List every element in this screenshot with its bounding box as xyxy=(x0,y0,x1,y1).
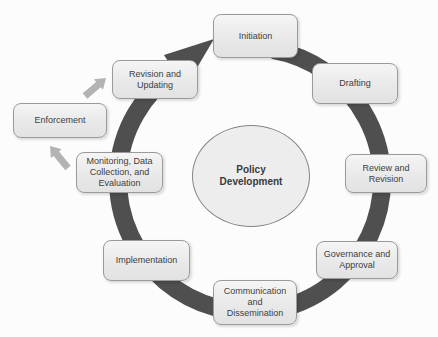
stage-label: Governance and Approval xyxy=(322,249,392,271)
stage-label: Implementation xyxy=(116,255,178,266)
stage-box-communication-and-dissemination: Communication and Dissemination xyxy=(213,280,297,325)
center-label: Policy Development xyxy=(216,164,286,189)
center-ellipse: Policy Development xyxy=(192,125,310,227)
stage-box-monitoring-data-collection-and-evaluation: Monitoring, Data Collection, and Evaluat… xyxy=(76,152,163,193)
stage-box-enforcement: Enforcement xyxy=(13,103,107,138)
arrow-monitoring-to-enforcement-icon xyxy=(50,146,71,170)
arrow-enforcement-to-revision-icon xyxy=(83,78,106,99)
stage-label: Enforcement xyxy=(34,115,85,126)
stage-label: Communication and Dissemination xyxy=(219,286,291,318)
stage-label: Revision and Updating xyxy=(118,69,192,91)
stage-box-review-and-revision: Review and Revision xyxy=(345,154,427,193)
stage-box-initiation: Initiation xyxy=(213,14,298,58)
stage-label: Initiation xyxy=(239,31,273,42)
stage-label: Drafting xyxy=(339,78,371,89)
stage-label: Monitoring, Data Collection, and Evaluat… xyxy=(82,156,157,188)
policy-cycle-diagram: Initiation Drafting Review and Revision … xyxy=(0,0,438,337)
stage-box-drafting: Drafting xyxy=(312,63,398,104)
stage-label: Review and Revision xyxy=(351,163,421,185)
stage-box-revision-and-updating: Revision and Updating xyxy=(112,60,198,99)
stage-box-governance-and-approval: Governance and Approval xyxy=(316,241,398,279)
stage-box-implementation: Implementation xyxy=(103,240,190,281)
